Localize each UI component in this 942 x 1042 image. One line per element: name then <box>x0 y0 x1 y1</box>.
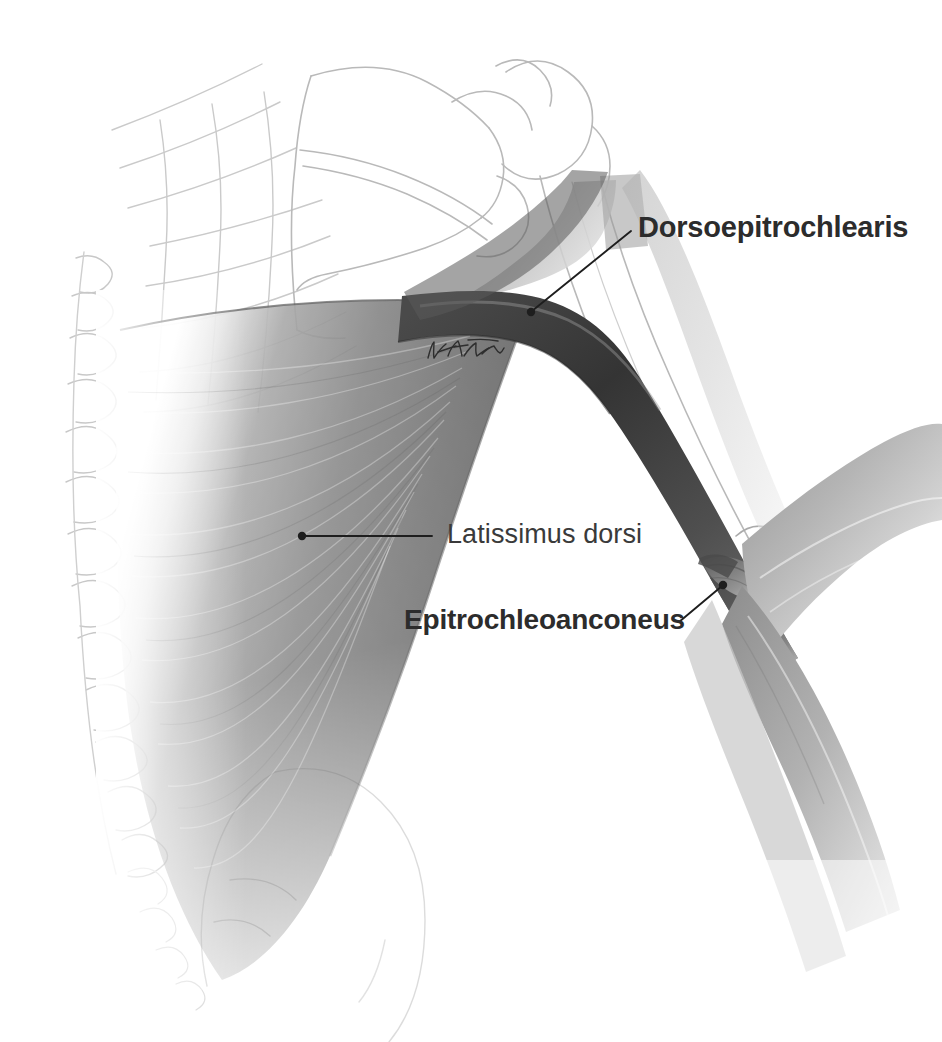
bottom-fade <box>700 860 942 1042</box>
anatomical-figure: Dorsoepitrochlearis Latissimus dorsi Epi… <box>0 0 942 1042</box>
latissimus-medial-fade <box>96 290 246 990</box>
artist-signature <box>424 336 508 366</box>
label-latissimus-dorsi: Latissimus dorsi <box>447 521 642 548</box>
label-dorsoepitrochlearis: Dorsoepitrochlearis <box>638 213 908 242</box>
label-epitrochleoanconeus: Epitrochleoanconeus <box>404 606 685 634</box>
